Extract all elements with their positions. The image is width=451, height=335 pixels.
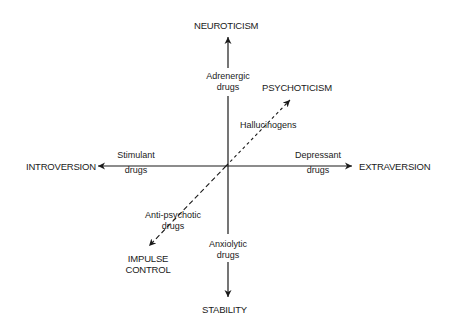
stimulant-drugs-label: Stimulant drugs — [108, 150, 164, 176]
depressant-drugs-label: Depressant drugs — [290, 150, 346, 176]
adrenergic-drugs-label: Adrenergic drugs — [203, 71, 253, 93]
antipsychotic-drugs-label: Anti-psychotic drugs — [140, 210, 206, 232]
introversion-label: INTROVERSION — [26, 161, 96, 172]
drugs-text: drugs — [203, 82, 253, 93]
drugs-text: drugs — [108, 165, 164, 176]
drugs-text: drugs — [140, 221, 206, 232]
drugs-text: drugs — [290, 165, 346, 176]
impulse-control-label: IMPULSE CONTROL — [120, 253, 176, 275]
psychoticism-axis — [226, 100, 290, 166]
neuroticism-label: NEUROTICISM — [194, 20, 258, 31]
control-label: CONTROL — [120, 264, 176, 275]
anxiolytic-drugs-label: Anxiolytic drugs — [204, 239, 252, 261]
psychoticism-label: PSYCHOTICISM — [262, 82, 332, 93]
impulse-label: IMPULSE — [120, 253, 176, 264]
depressant-text: Depressant — [290, 150, 346, 161]
antipsychotic-text: Anti-psychotic — [140, 210, 206, 221]
stability-label: STABILITY — [202, 304, 247, 315]
stimulant-text: Stimulant — [108, 150, 164, 161]
hallucinogens-label: Hallucinogens — [240, 120, 297, 131]
adrenergic-text: Adrenergic — [203, 71, 253, 82]
extraversion-label: EXTRAVERSION — [359, 161, 430, 172]
anxiolytic-text: Anxiolytic — [204, 239, 252, 250]
drugs-text: drugs — [204, 250, 252, 261]
impulse-control-axis — [149, 166, 226, 246]
